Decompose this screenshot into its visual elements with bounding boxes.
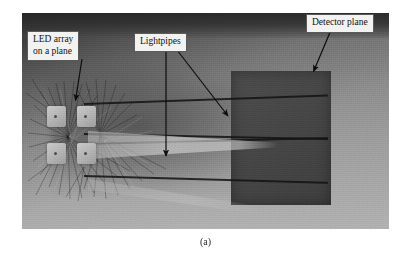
callout-led-array: LED array on a plane [27,31,79,61]
figure-root: LED array on a plane Lightpipes Detector… [0,0,411,261]
callout-detector-plane: Detector plane [306,14,374,33]
callout-lightpipes: Lightpipes [134,33,187,52]
led-element [77,106,96,127]
led-element [47,106,66,127]
led-element [77,143,96,164]
figure-caption: (a) [0,236,411,247]
led-element [47,143,66,164]
